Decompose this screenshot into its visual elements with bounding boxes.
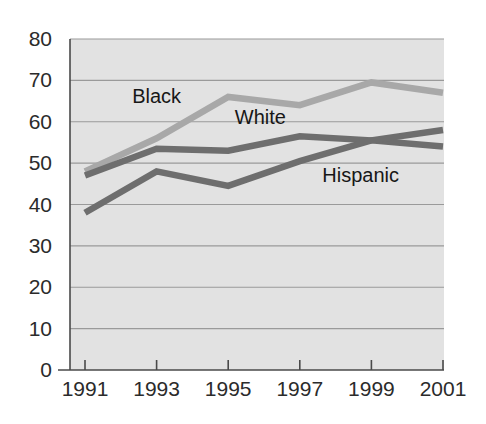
x-tick-label: 1999 [348,377,395,400]
x-tick-label: 1991 [62,377,109,400]
x-tick-label: 1997 [276,377,323,400]
x-tick-label: 1993 [133,377,180,400]
chart-canvas: 01020304050607080 1991199319951997199920… [0,0,486,424]
series-label-black: Black [132,85,182,107]
series-label-hispanic: Hispanic [322,164,399,186]
y-tick-label: 30 [29,234,52,257]
x-tick-label: 2001 [420,377,467,400]
y-tick-label: 60 [29,110,52,133]
y-tick-label: 20 [29,275,52,298]
y-tick-label: 70 [29,68,52,91]
y-tick-label: 50 [29,151,52,174]
line-chart: 01020304050607080 1991199319951997199920… [0,0,486,424]
y-tick-label: 10 [29,317,52,340]
y-tick-label: 40 [29,193,52,216]
series-label-white: White [235,106,286,128]
y-tick-label: 0 [40,358,52,381]
y-axis-tick-labels: 01020304050607080 [29,27,52,381]
y-tick-label: 80 [29,27,52,50]
x-tick-label: 1995 [205,377,252,400]
